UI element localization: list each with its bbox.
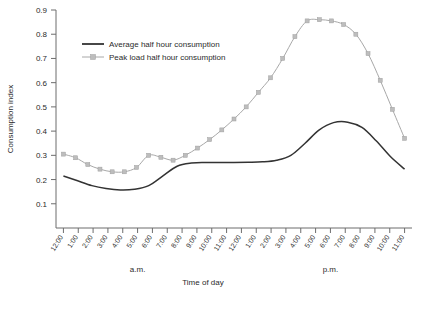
x-tick-label: 2:00	[259, 234, 272, 249]
data-point-marker	[305, 19, 309, 23]
data-point-marker	[183, 153, 187, 157]
data-point-marker	[208, 138, 212, 142]
y-tick-label: 0.8	[36, 30, 48, 39]
data-point-marker	[366, 52, 370, 56]
period-label: a.m.	[130, 265, 146, 274]
data-point-marker	[390, 107, 394, 111]
legend-marker-peak	[91, 55, 96, 60]
x-tick-label: 12:00	[227, 234, 242, 253]
x-tick-label: 10:00	[375, 234, 390, 253]
x-tick-label: 5:00	[303, 234, 316, 249]
period-label: p.m.	[323, 265, 339, 274]
data-point-marker	[293, 35, 297, 39]
x-tick-label: 7:00	[155, 234, 168, 249]
y-tick-label: 0.3	[36, 151, 48, 160]
data-point-marker	[256, 90, 260, 94]
data-point-marker	[110, 170, 114, 174]
period-labels: a.m.p.m.	[130, 265, 338, 274]
x-tick-label: 4:00	[110, 234, 123, 249]
x-axis-tick-labels: 12:001:002:003:004:005:006:007:008:009:0…	[49, 234, 405, 253]
x-tick-label: 8:00	[170, 234, 183, 249]
data-point-marker	[354, 32, 358, 36]
data-point-marker	[232, 117, 236, 121]
data-point-marker	[281, 56, 285, 60]
y-tick-label: 0.4	[36, 127, 48, 136]
data-point-marker	[98, 167, 102, 171]
chart-container: 0.10.20.30.40.50.60.70.80.9 Consumption …	[0, 0, 422, 309]
y-axis-ticks: 0.10.20.30.40.50.60.70.80.9	[36, 6, 56, 209]
x-tick-label: 10:00	[197, 234, 212, 253]
x-tick-label: 4:00	[288, 234, 301, 249]
data-point-marker	[159, 155, 163, 159]
x-axis-title: Time of day	[182, 278, 224, 287]
y-tick-label: 0.6	[36, 79, 48, 88]
x-tick-label: 1:00	[244, 234, 257, 249]
data-point-marker	[317, 18, 321, 22]
series-average	[63, 122, 404, 190]
data-point-marker	[329, 19, 333, 23]
x-tick-label: 12:00	[49, 234, 64, 253]
data-point-marker	[74, 156, 78, 160]
data-point-marker	[147, 153, 151, 157]
x-axis: 12:001:002:003:004:005:006:007:008:009:0…	[49, 228, 412, 287]
legend-label-average: Average half hour consumption	[109, 40, 220, 49]
x-tick-label: 3:00	[274, 234, 287, 249]
data-point-marker	[378, 78, 382, 82]
x-tick-label: 3:00	[96, 234, 109, 249]
x-tick-label: 2:00	[81, 234, 94, 249]
legend-label-peak: Peak load half hour consumption	[109, 53, 226, 62]
y-tick-label: 0.1	[36, 200, 48, 209]
x-tick-label: 6:00	[140, 234, 153, 249]
data-point-marker	[122, 170, 126, 174]
x-tick-label: 8:00	[348, 234, 361, 249]
data-point-marker	[61, 152, 65, 156]
data-point-marker	[195, 146, 199, 150]
y-axis-title: Consumption index	[6, 85, 15, 153]
data-point-marker	[342, 23, 346, 27]
x-tick-label: 6:00	[318, 234, 331, 249]
y-tick-label: 0.5	[36, 103, 48, 112]
data-point-marker	[171, 158, 175, 162]
data-point-marker	[269, 76, 273, 80]
x-tick-label: 1:00	[66, 234, 79, 249]
data-point-marker	[135, 165, 139, 169]
data-point-marker	[86, 163, 90, 167]
x-tick-label: 5:00	[125, 234, 138, 249]
x-tick-label: 11:00	[390, 234, 405, 252]
data-point-marker	[403, 136, 407, 140]
y-tick-label: 0.2	[36, 176, 48, 185]
x-tick-label: 11:00	[212, 234, 227, 252]
x-axis-ticks	[63, 228, 404, 233]
x-tick-label: 9:00	[185, 234, 198, 249]
consumption-index-line-chart: 0.10.20.30.40.50.60.70.80.9 Consumption …	[0, 0, 422, 309]
y-tick-label: 0.9	[36, 6, 48, 15]
chart-legend: Average half hour consumption Peak load …	[82, 40, 226, 62]
x-tick-label: 7:00	[333, 234, 346, 249]
data-point-marker	[220, 128, 224, 132]
x-tick-label: 9:00	[363, 234, 376, 249]
series-line	[63, 122, 404, 190]
data-point-marker	[244, 105, 248, 109]
y-tick-label: 0.7	[36, 54, 48, 63]
y-axis: 0.10.20.30.40.50.60.70.80.9 Consumption …	[6, 6, 56, 228]
